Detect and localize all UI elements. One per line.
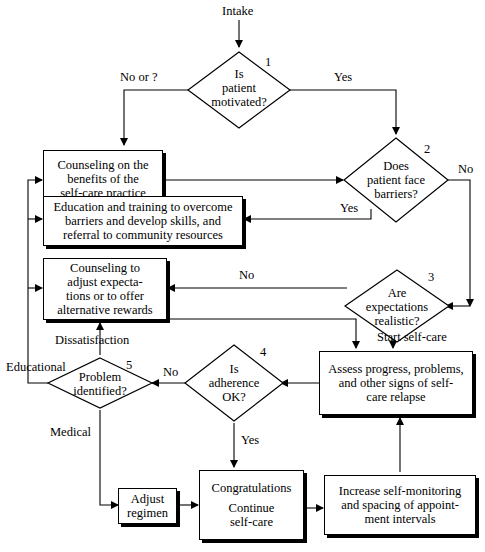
decision-4-line: OK? xyxy=(222,390,246,404)
box-line: Assess progress, problems, xyxy=(328,362,463,376)
box-line: care relapse xyxy=(366,390,425,404)
box-line: barriers and develop skills, and xyxy=(65,214,221,228)
decision-5-text: Problem identified? xyxy=(58,368,142,400)
edge-label-dissatisfaction: Dissatisfaction xyxy=(55,333,129,347)
box-line: benefits of the xyxy=(67,172,139,186)
process-increase-monitoring: Increase self-monitoring and spacing of … xyxy=(324,475,476,535)
process-congratulations: Congratulations Continue self-care xyxy=(199,470,304,540)
decision-4-line: Is xyxy=(229,362,238,376)
decision-3-number: 3 xyxy=(428,270,434,284)
decision-3-line: Are xyxy=(388,286,407,300)
process-adjust-regimen: Adjust regimen xyxy=(118,488,177,524)
box-line: Counseling on the xyxy=(58,158,149,172)
box-line: Congratulations xyxy=(212,481,292,495)
decision-1-line: motivated? xyxy=(211,95,267,109)
decision-2-text: Does patient face barriers? xyxy=(350,156,442,204)
decision-4-number: 4 xyxy=(260,345,266,359)
box-line: adjust expecta- xyxy=(67,275,142,289)
process-assess: Assess progress, problems, and other sig… xyxy=(319,351,473,415)
edge-label-d1-yes: Yes xyxy=(334,70,352,84)
decision-5-line: identified? xyxy=(73,384,126,398)
edge-label-start-selfcare: Start self-care xyxy=(377,330,447,344)
box-line: alternative rewards xyxy=(57,303,152,317)
decision-4-text: Is adherence OK? xyxy=(192,360,276,406)
intake-label: Intake xyxy=(222,4,253,18)
decision-5-number: 5 xyxy=(126,358,132,372)
box-line: Adjust xyxy=(131,492,164,506)
decision-1-line: patient xyxy=(222,81,256,95)
decision-1-text: Is patient motivated? xyxy=(196,64,282,112)
decision-2-line: barriers? xyxy=(374,187,418,201)
decision-1-line: Is xyxy=(234,67,243,81)
box-line: Counseling to xyxy=(70,261,140,275)
box-line: and other signs of self- xyxy=(339,376,454,390)
box-line: Education and training to overcome xyxy=(53,200,232,214)
box-line: regimen xyxy=(127,506,168,520)
decision-3-line: realistic? xyxy=(374,314,419,328)
box-line: ment intervals xyxy=(364,512,435,526)
edge-label-d2-no: No xyxy=(458,162,473,176)
box-line: self-care xyxy=(230,515,273,529)
edge-label-educational: Educational xyxy=(6,360,66,374)
box-line: and spacing of appoint- xyxy=(341,498,459,512)
decision-1-number: 1 xyxy=(265,55,271,69)
edge-label-d4-no: No xyxy=(163,365,178,379)
edge-label-d3-no: No xyxy=(239,268,254,282)
box-line: referral to community resources xyxy=(63,228,223,242)
edge-label-d2-yes: Yes xyxy=(340,201,358,215)
edge-label-medical: Medical xyxy=(50,425,91,439)
decision-3-text: Are expectations realistic? xyxy=(349,284,445,330)
process-counsel-adjust: Counseling to adjust expecta- tions or t… xyxy=(43,258,167,320)
decision-5-line: Problem xyxy=(79,370,121,384)
decision-2-line: Does xyxy=(383,159,409,173)
decision-2-line: patient face xyxy=(367,173,425,187)
box-line: Continue xyxy=(229,501,275,515)
process-education: Education and training to overcome barri… xyxy=(43,196,243,246)
decision-2-number: 2 xyxy=(424,142,430,156)
edge-label-d1-no: No or ? xyxy=(120,70,158,84)
box-line: Increase self-monitoring xyxy=(339,484,462,498)
edge-label-d4-yes: Yes xyxy=(241,433,259,447)
decision-3-line: expectations xyxy=(366,300,428,314)
decision-4-line: adherence xyxy=(209,376,260,390)
box-line: tions or to offer xyxy=(66,289,144,303)
